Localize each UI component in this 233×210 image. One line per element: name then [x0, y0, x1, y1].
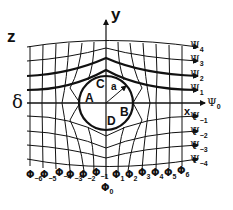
- point-a: A: [85, 92, 94, 104]
- psi-neg4-label: Ψ−4: [190, 154, 208, 167]
- psi-2-label: Ψ2: [190, 69, 204, 82]
- delta-label: δ: [12, 93, 23, 111]
- point-c: C: [96, 78, 105, 90]
- phi-2-label: Φ2: [125, 170, 137, 182]
- psi-neg1-label: Ψ−1: [190, 111, 208, 124]
- y-axis-label: y: [111, 6, 120, 23]
- phi-1-label: Φ1: [112, 170, 124, 182]
- psi-4-label: Ψ4: [190, 40, 204, 53]
- psi-3-label: Ψ3: [190, 54, 204, 67]
- plane-label-z: z: [7, 28, 16, 45]
- point-d: D: [107, 115, 116, 127]
- phi-4-label: Φ4: [151, 168, 163, 180]
- phi-neg1-label: Φ−1: [92, 168, 109, 180]
- psi-neg3-label: Ψ−3: [190, 140, 208, 153]
- radius-label: a: [111, 82, 117, 92]
- phi-6-label: Φ6: [177, 166, 189, 178]
- psi-neg2-label: Ψ−2: [190, 126, 208, 139]
- point-b: B: [120, 106, 129, 118]
- phi-3-label: Φ3: [138, 168, 150, 180]
- phi-0-label: Φ0: [101, 183, 113, 195]
- streamlines: [27, 41, 205, 167]
- phi-5-label: Φ5: [164, 168, 176, 180]
- psi-0-label: Ψ0: [207, 97, 221, 110]
- psi-1-label: Ψ1: [190, 83, 204, 96]
